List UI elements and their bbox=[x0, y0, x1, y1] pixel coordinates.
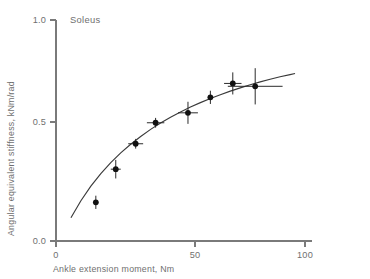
data-marker bbox=[185, 110, 191, 116]
data-points-layer bbox=[93, 68, 283, 209]
x-tick-label-100: 100 bbox=[297, 250, 313, 260]
data-point bbox=[207, 91, 213, 104]
data-marker bbox=[230, 81, 236, 87]
data-point bbox=[93, 196, 99, 209]
plot-title: Soleus bbox=[70, 14, 100, 25]
data-point bbox=[128, 139, 143, 149]
fit-curve bbox=[71, 73, 295, 217]
data-marker bbox=[153, 120, 159, 126]
x-axis-title: Ankle extension moment, Nm bbox=[53, 264, 174, 274]
data-marker bbox=[113, 166, 119, 172]
data-point bbox=[228, 68, 283, 104]
data-marker bbox=[93, 199, 99, 205]
data-marker bbox=[207, 94, 213, 100]
x-tick-label-50: 50 bbox=[190, 250, 201, 260]
chart-page: 1.0 0.5 0.0 0 50 100 Soleus Ankle extens… bbox=[0, 0, 370, 279]
soleus-stiffness-scatter-chart: 1.0 0.5 0.0 0 50 100 Soleus Ankle extens… bbox=[0, 0, 370, 279]
data-point bbox=[224, 72, 241, 94]
y-tick-label-05: 0.5 bbox=[33, 117, 46, 127]
data-point bbox=[147, 118, 164, 128]
y-tick-label-0: 0.0 bbox=[33, 236, 46, 246]
y-axis-title: Angular equivalent stiffness, kNm/rad bbox=[6, 81, 16, 236]
y-tick-label-1: 1.0 bbox=[33, 15, 46, 25]
x-tick-label-0: 0 bbox=[53, 250, 58, 260]
data-marker bbox=[252, 83, 258, 89]
data-marker bbox=[133, 141, 139, 147]
data-point bbox=[111, 160, 121, 179]
